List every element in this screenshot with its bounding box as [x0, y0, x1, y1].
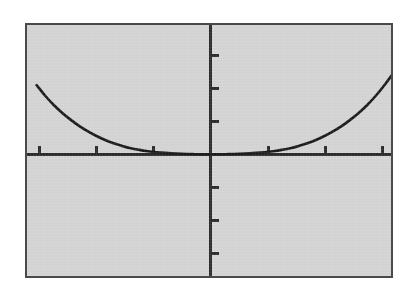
- plot-canvas: [27, 25, 391, 276]
- plot-frame: [25, 23, 393, 278]
- function-curve: [37, 74, 391, 155]
- graph-viewport: [0, 0, 415, 295]
